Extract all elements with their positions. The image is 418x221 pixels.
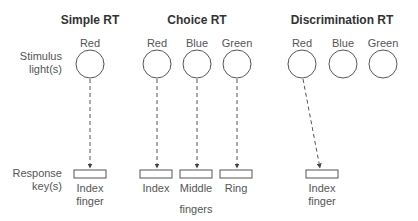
header-simple-rt: Simple RT (61, 13, 120, 27)
choice-light-label-green: Green (222, 37, 253, 50)
choice-light-label-blue: Blue (186, 37, 208, 50)
simple-red-light-icon (76, 50, 104, 78)
disc-light-label-red: Red (292, 37, 312, 50)
disc-light-label-green: Green (368, 37, 399, 50)
choice-blue-light-icon (183, 50, 211, 78)
choice-red-light-icon (143, 50, 171, 78)
choice-key-index (140, 170, 172, 178)
choice-key-label-ring: Ring (225, 182, 248, 195)
response-label: Response key(s) (12, 167, 62, 193)
simple-key-label-line2: finger (76, 195, 104, 208)
disc-red-light-icon (288, 50, 316, 78)
choice-green-light-icon (223, 50, 251, 78)
simple-response-key (74, 170, 106, 178)
stimulus-label-line2: light(s) (20, 63, 62, 76)
header-discrimination-rt: Discrimination RT (291, 13, 394, 27)
disc-key-label-line1: Index (308, 182, 336, 195)
response-label-line1: Response (12, 167, 62, 180)
simple-key-label-line1: Index (76, 182, 104, 195)
choice-key-middle (180, 170, 212, 178)
response-label-line2: key(s) (12, 180, 62, 193)
simple-key-label: Index finger (76, 182, 104, 208)
stimulus-label-line1: Stimulus (20, 50, 62, 63)
choice-light-label-red: Red (147, 37, 167, 50)
header-choice-rt: Choice RT (167, 13, 226, 27)
choice-key-label-middle: Middle (180, 182, 212, 195)
simple-light-label: Red (80, 37, 100, 50)
disc-blue-light-icon (329, 50, 357, 78)
disc-arrow-red (303, 79, 320, 168)
choice-group-label: fingers (179, 203, 212, 216)
disc-light-label-blue: Blue (332, 37, 354, 50)
stimulus-label: Stimulus light(s) (20, 50, 62, 76)
disc-key-label-line2: finger (308, 195, 336, 208)
disc-key-label: Index finger (308, 182, 336, 208)
choice-key-ring (220, 170, 252, 178)
disc-response-key (306, 170, 338, 178)
disc-green-light-icon (369, 50, 397, 78)
choice-key-label-index: Index (143, 182, 170, 195)
